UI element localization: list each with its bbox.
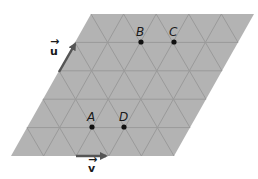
svg-text:A: A	[86, 110, 95, 124]
vector-u-arrowmark: →	[50, 35, 59, 48]
svg-text:C: C	[169, 25, 178, 39]
lattice-diagram: u → v → B C A D	[0, 0, 258, 179]
svg-text:D: D	[119, 110, 128, 124]
svg-text:B: B	[136, 25, 144, 39]
vector-v-arrowmark: →	[88, 153, 97, 166]
